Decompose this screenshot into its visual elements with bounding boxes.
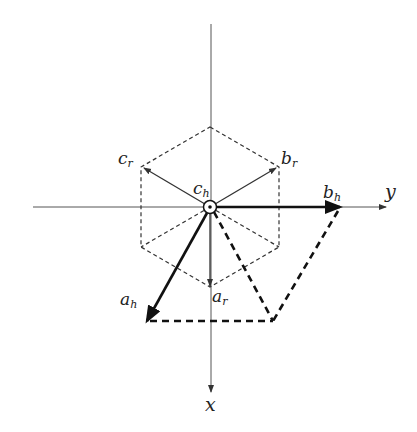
label-c-h: ch bbox=[193, 180, 210, 199]
label-base: b bbox=[281, 148, 292, 168]
label-sub: h bbox=[203, 187, 210, 200]
vector-b-r bbox=[210, 168, 276, 207]
label-sub: r bbox=[128, 157, 133, 170]
label-a-r: ar bbox=[212, 288, 227, 307]
label-c-r: cr bbox=[118, 150, 133, 169]
h-vectors bbox=[147, 207, 340, 321]
r-vectors bbox=[144, 168, 276, 286]
vector-diagram bbox=[0, 0, 417, 432]
label-b-h: bh bbox=[323, 184, 341, 203]
label-sub: r bbox=[292, 157, 297, 170]
label-sub: h bbox=[334, 191, 341, 204]
vector-a-h bbox=[147, 213, 207, 321]
axis-label-y: y bbox=[385, 182, 396, 201]
c-h-out-of-plane-icon bbox=[204, 201, 217, 214]
label-base: a bbox=[212, 286, 222, 306]
label-a-h: ah bbox=[120, 291, 137, 310]
label-base: c bbox=[118, 148, 128, 168]
label-base: b bbox=[323, 182, 334, 202]
label-base: c bbox=[193, 178, 203, 198]
label-b-r: br bbox=[281, 150, 297, 169]
label-sub: h bbox=[130, 298, 137, 311]
axis-label-x: x bbox=[205, 395, 216, 414]
label-base: a bbox=[120, 289, 130, 309]
label-sub: r bbox=[222, 295, 227, 308]
